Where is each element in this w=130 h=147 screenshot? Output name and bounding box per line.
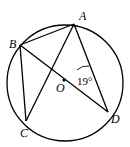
label-B: B <box>9 37 17 51</box>
label-C: C <box>20 126 29 140</box>
label-D: D <box>110 112 120 126</box>
angle-label: 19° <box>77 75 92 87</box>
label-A: A <box>78 9 87 23</box>
label-O: O <box>56 81 65 95</box>
segment-AC <box>26 24 74 121</box>
angle-arc <box>77 66 89 70</box>
segment-AB <box>20 24 74 45</box>
circle-diagram: A B C D O 19° <box>0 0 130 147</box>
segment-BC <box>20 45 26 121</box>
